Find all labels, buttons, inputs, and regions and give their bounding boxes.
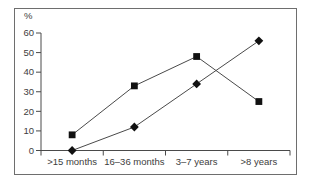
- y-axis-tick-label: 30: [23, 86, 34, 97]
- x-axis-category-label: >8 years: [241, 156, 278, 167]
- x-axis-category-label: >15 months: [47, 156, 97, 167]
- y-axis-tick-label: 40: [23, 66, 34, 77]
- y-axis-tick-label: 60: [23, 27, 34, 38]
- square-marker: [193, 53, 200, 60]
- square-marker: [255, 98, 262, 105]
- line-chart: 0102030405060%>15 months16–36 months3–7 …: [0, 0, 311, 182]
- diamond-marker: [130, 123, 139, 132]
- y-axis-unit-label: %: [24, 10, 33, 21]
- diamond-marker: [192, 80, 201, 89]
- diamond-marker: [254, 36, 263, 45]
- y-axis-tick-label: 20: [23, 106, 34, 117]
- square-marker: [69, 131, 76, 138]
- y-axis-tick-label: 0: [29, 145, 34, 156]
- square-series-line: [72, 57, 259, 135]
- y-axis-tick-label: 10: [23, 125, 34, 136]
- y-axis-tick-label: 50: [23, 47, 34, 58]
- diamond-series-line: [72, 41, 259, 151]
- x-axis-category-label: 16–36 months: [104, 156, 164, 167]
- figure-canvas: 0102030405060%>15 months16–36 months3–7 …: [0, 0, 311, 182]
- square-marker: [131, 82, 138, 89]
- diamond-marker: [68, 146, 77, 155]
- x-axis-category-label: 3–7 years: [176, 156, 218, 167]
